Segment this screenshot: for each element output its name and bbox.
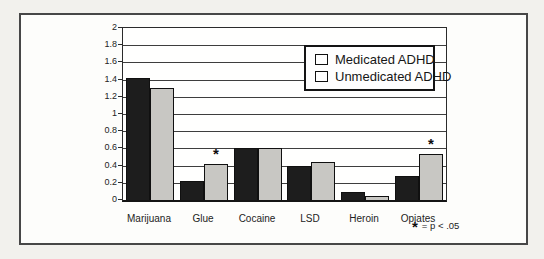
legend-swatch-medicated [315,54,328,65]
y-axis-tick-label: 1 [112,108,117,118]
category-label: Heroin [349,213,378,224]
legend-label-medicated: Medicated ADHD [335,52,435,67]
y-axis-tick-label: 1.6 [104,56,117,66]
significance-footnote: * = p < .05 [412,220,459,231]
legend-label-unmedicated: Unmedicated ADHD [335,69,451,84]
y-axis-tick-label: 1.2 [104,91,117,101]
y-axis-tick-mark [118,61,123,62]
asterisk-icon: * [412,222,418,232]
x-axis-category-labels: MarijuanaGlueCocaineLSDHeroinOpiates [122,213,445,227]
y-axis-tick-mark [118,147,123,148]
y-axis-tick-mark [118,165,123,166]
category-label: LSD [300,213,319,224]
y-axis-tick-mark [118,96,123,97]
legend-swatch-unmedicated [315,71,328,82]
legend-item-unmedicated-adhd: Unmedicated ADHD [315,68,427,85]
bar-medicated-adhd [395,176,419,200]
significance-asterisk: * [213,148,219,160]
bar-unmedicated-adhd [204,164,228,200]
y-axis-tick-mark [118,113,123,114]
y-axis-tick-mark [118,44,123,45]
y-axis-tick-label: 0.6 [104,142,117,152]
y-axis-tick-label: 0 [112,194,117,204]
bar-medicated-adhd [287,166,311,200]
legend-item-medicated-adhd: Medicated ADHD [315,51,427,68]
y-axis-tick-label: 0.4 [104,160,117,170]
figure-frame: 00.20.40.60.811.21.41.61.82 ** Marijuana… [19,13,528,245]
bar-medicated-adhd [234,148,258,200]
bar-unmedicated-adhd [150,88,174,200]
bar-unmedicated-adhd [311,162,335,200]
category-label: Cocaine [239,213,276,224]
y-axis-tick-label: 0.2 [104,177,117,187]
bar-medicated-adhd [341,192,365,200]
y-axis-tick-mark [118,182,123,183]
category-label: Marijuana [127,213,171,224]
bar-unmedicated-adhd [258,148,282,200]
legend: Medicated ADHD Unmedicated ADHD [304,45,435,91]
bar-medicated-adhd [126,78,150,200]
y-axis-tick-mark [118,79,123,80]
bar-unmedicated-adhd [419,154,443,200]
y-axis-tick-label: 1.4 [104,74,117,84]
y-axis-tick-mark [118,27,123,28]
y-axis-tick-label: 0.8 [104,125,117,135]
y-axis-labels: 00.20.40.60.811.21.41.61.82 [21,27,117,199]
bar-medicated-adhd [180,181,204,200]
footnote-text: = p < .05 [422,220,460,231]
significance-asterisk: * [428,138,434,150]
bar-unmedicated-adhd [365,196,389,200]
y-axis-tick-label: 1.8 [104,39,117,49]
y-axis-tick-mark [118,130,123,131]
category-label: Glue [192,213,213,224]
y-axis-tick-label: 2 [112,22,117,32]
y-axis-tick-mark [118,199,123,200]
